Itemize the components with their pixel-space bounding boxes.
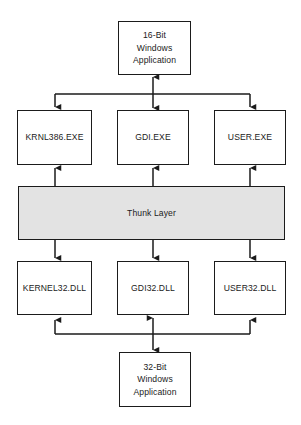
- node-32-bit-windows-application: 32-Bit Windows Application: [119, 352, 191, 407]
- node-label: Thunk Layer: [127, 208, 176, 218]
- node-label: USER.EXE: [228, 131, 272, 144]
- node-gdi32-dll: GDI32.DLL: [117, 261, 189, 315]
- node-krnl386-exe: KRNL386.EXE: [17, 110, 92, 165]
- node-16-bit-windows-application: 16-Bit Windows Application: [118, 21, 191, 75]
- node-kernel32-dll: KERNEL32.DLL: [17, 261, 92, 315]
- node-thunk-layer: Thunk Layer: [18, 186, 285, 240]
- node-label-line: Windows: [137, 373, 173, 386]
- node-label: KERNEL32.DLL: [23, 282, 86, 295]
- node-gdi-exe: GDI.EXE: [117, 110, 189, 165]
- thunk-architecture-diagram: 16-Bit Windows Application KRNL386.EXE G…: [0, 0, 301, 425]
- node-label-line: Application: [133, 54, 176, 67]
- node-label: GDI32.DLL: [131, 282, 175, 295]
- node-label-line: Application: [133, 386, 176, 399]
- node-label-line: 16-Bit: [143, 29, 166, 42]
- node-label: KRNL386.EXE: [26, 131, 84, 144]
- node-user32-dll: USER32.DLL: [214, 261, 286, 315]
- node-label: USER32.DLL: [224, 282, 277, 295]
- node-label-line: 32-Bit: [143, 361, 166, 374]
- node-label: GDI.EXE: [135, 131, 171, 144]
- node-label-line: Windows: [137, 42, 173, 55]
- node-user-exe: USER.EXE: [214, 110, 286, 165]
